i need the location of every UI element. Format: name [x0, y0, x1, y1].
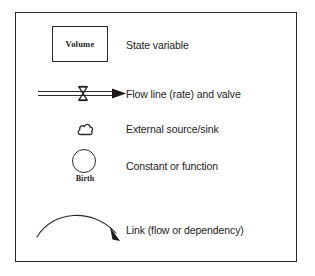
legend-frame: Volume State variable Flow line (rate) a…: [15, 12, 297, 262]
legend-description-link: Link (flow or dependency): [126, 224, 244, 236]
legend-description-state-variable: State variable: [126, 39, 189, 51]
converter-label: Birth: [67, 174, 103, 183]
constant-function-symbol: Birth: [69, 149, 105, 193]
converter-circle: [72, 149, 96, 173]
legend-description-constant-function: Constant or function: [126, 160, 218, 172]
flow-line-valve-symbol: [38, 83, 134, 105]
flow-line-valve-glyph: [38, 83, 134, 105]
legend-description-external-source-sink: External source/sink: [126, 123, 219, 135]
state-variable-box-label: Volume: [66, 39, 95, 49]
state-variable-box-symbol: Volume: [52, 26, 108, 62]
legend-description-flow-line: Flow line (rate) and valve: [126, 88, 241, 100]
cloud-symbol: [74, 118, 98, 142]
cloud-icon: [74, 118, 98, 142]
